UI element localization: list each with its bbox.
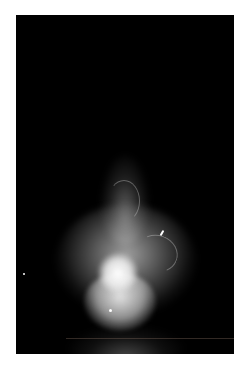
smoke-wisp [108,180,140,222]
photo [16,15,234,354]
spark [23,273,25,275]
spark [109,309,112,312]
floor-reflection [66,325,186,354]
horizon-line [66,338,234,339]
bright-core [98,253,138,293]
